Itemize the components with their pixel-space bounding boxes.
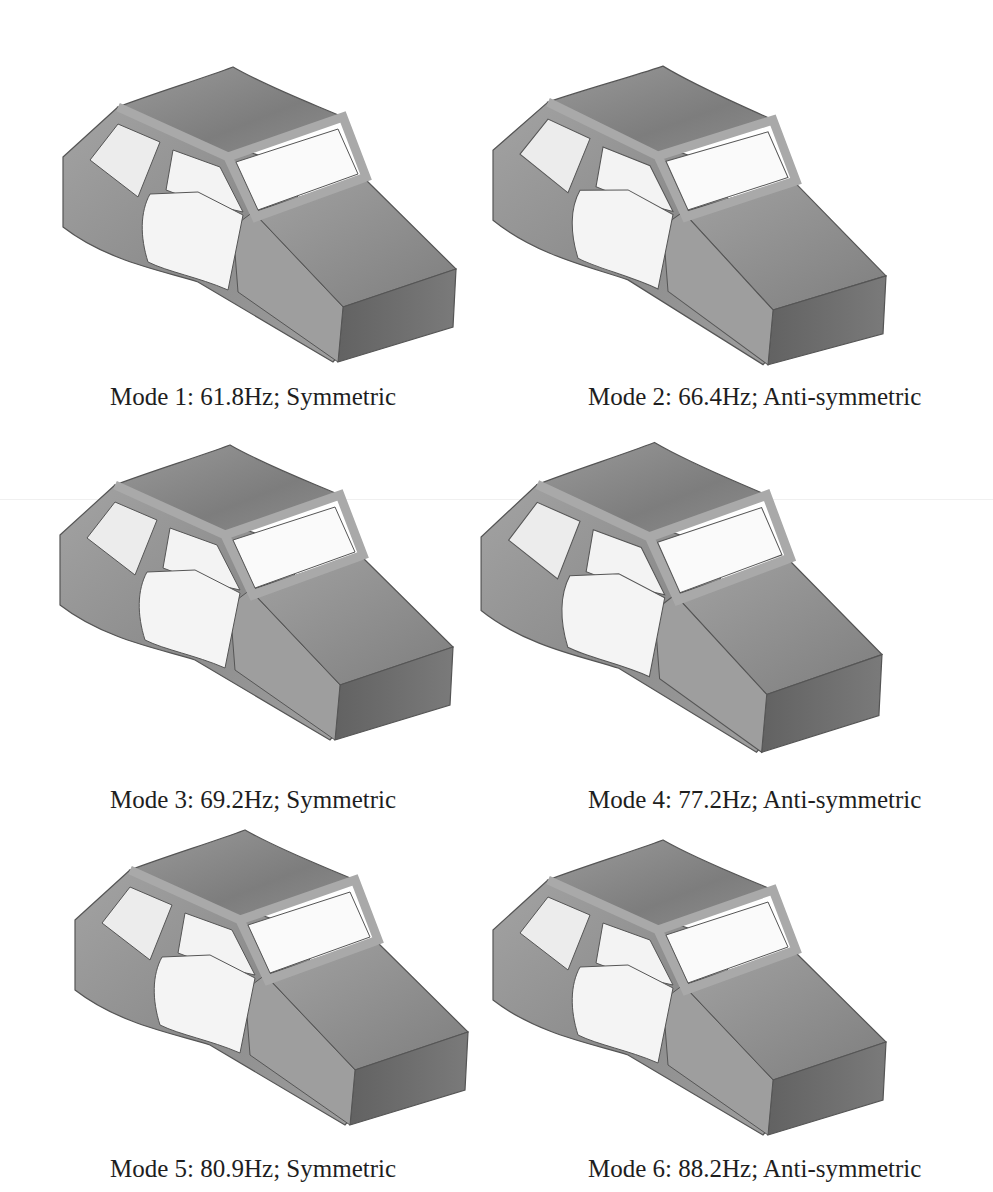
car-mode-shape-3-image xyxy=(45,440,465,750)
mode-2-caption: Mode 2: 66.4Hz; Anti-symmetric xyxy=(588,383,921,411)
car-mode-shape-1-image xyxy=(48,62,468,372)
mode-4-panel xyxy=(470,440,890,760)
mode-2-panel xyxy=(478,62,898,372)
car-mode-shape-6-image xyxy=(478,835,898,1145)
mode-5-panel xyxy=(60,825,480,1135)
mode-1-caption: Mode 1: 61.8Hz; Symmetric xyxy=(110,383,396,411)
mode-4-caption: Mode 4: 77.2Hz; Anti-symmetric xyxy=(588,786,921,814)
car-mode-shape-2-image xyxy=(478,55,898,380)
mode-6-panel xyxy=(478,835,898,1145)
mode-3-caption: Mode 3: 69.2Hz; Symmetric xyxy=(110,786,396,814)
mode-5-caption: Mode 5: 80.9Hz; Symmetric xyxy=(110,1155,396,1183)
mode-6-caption: Mode 6: 88.2Hz; Anti-symmetric xyxy=(588,1155,921,1183)
mode-1-panel xyxy=(48,62,468,372)
car-mode-shape-4-image xyxy=(466,432,894,768)
mode-3-panel xyxy=(45,440,465,750)
car-mode-shape-5-image xyxy=(60,825,480,1135)
